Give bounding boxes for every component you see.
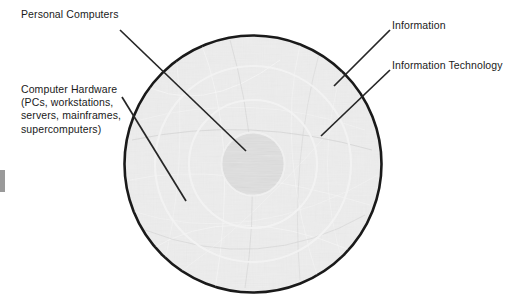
label-computer-hardware-line1: Computer Hardware: [21, 83, 117, 95]
label-information-technology: Information Technology: [392, 59, 503, 72]
concentric-circles-diagram: [0, 0, 514, 302]
label-computer-hardware: Computer Hardware(PCs, workstations,serv…: [21, 83, 121, 136]
core-circle-group: [222, 133, 285, 196]
label-personal-computers: Personal Computers: [21, 8, 119, 21]
label-information-technology-text: Information Technology: [392, 59, 503, 71]
label-personal-computers-text: Personal Computers: [21, 8, 119, 20]
label-information-text: Information: [392, 19, 446, 31]
page-edge-mark: [0, 170, 5, 192]
diagram-canvas: Personal Computers Computer Hardware(PCs…: [0, 0, 514, 302]
label-information: Information: [392, 19, 446, 32]
label-computer-hardware-line3: servers, mainframes,: [21, 109, 121, 121]
label-computer-hardware-line2: (PCs, workstations,: [21, 96, 113, 108]
label-computer-hardware-line4: supercomputers): [21, 123, 101, 135]
